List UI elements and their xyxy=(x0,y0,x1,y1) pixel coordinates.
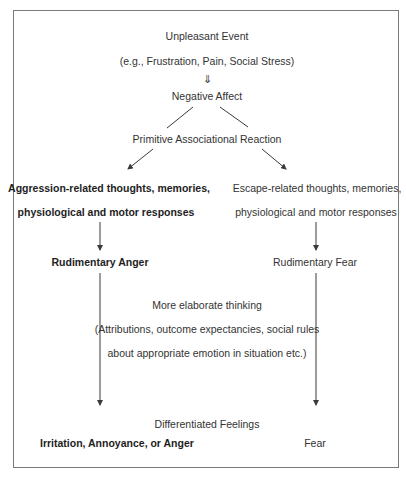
escape-responses-label: physiological and motor responses xyxy=(235,206,397,218)
rudimentary-anger-label: Rudimentary Anger xyxy=(51,256,148,268)
negative-affect-label: Negative Affect xyxy=(172,90,242,102)
rudimentary-fear-label: Rudimentary Fear xyxy=(273,256,357,268)
aggression-responses-label: physiological and motor responses xyxy=(18,206,195,218)
connector-layer xyxy=(0,0,406,479)
negative-affect-to-primitive-lines xyxy=(167,107,248,128)
thinking-details-line2: about appropriate emotion in situation e… xyxy=(107,347,306,359)
irritation-anger-label: Irritation, Annoyance, or Anger xyxy=(40,437,194,449)
rudimentary-to-final-arrows xyxy=(100,273,316,405)
primitive-reaction-label: Primitive Associational Reaction xyxy=(133,133,282,145)
event-examples-label: (e.g., Frustration, Pain, Social Stress) xyxy=(120,55,294,67)
elaborate-thinking-label: More elaborate thinking xyxy=(152,299,262,311)
unpleasant-event-label: Unpleasant Event xyxy=(166,30,249,42)
differentiated-feelings-label: Differentiated Feelings xyxy=(155,418,260,430)
thinking-details-line1: (Attributions, outcome expectancies, soc… xyxy=(95,323,320,335)
escape-thoughts-label: Escape-related thoughts, memories, xyxy=(233,182,402,194)
primitive-to-branches-arrows xyxy=(128,149,286,169)
double-down-arrow-icon: ⇓ xyxy=(203,73,212,85)
fear-label: Fear xyxy=(304,437,326,449)
branch-to-rudimentary-arrows xyxy=(100,222,316,250)
aggression-thoughts-label: Aggression-related thoughts, memories, xyxy=(8,182,210,194)
